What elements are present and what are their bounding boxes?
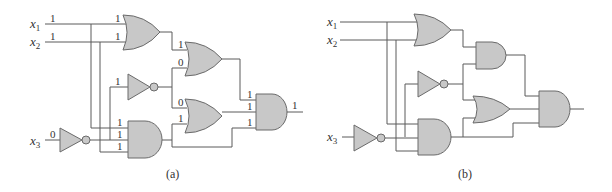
bit-and1-in1: 1 bbox=[117, 116, 123, 128]
bit-not1-in: 1 bbox=[115, 75, 121, 87]
caption-a: (a) bbox=[166, 167, 179, 181]
panel-a: x1 x2 x3 bbox=[29, 12, 303, 181]
input-x2-label-b: x2 bbox=[326, 32, 337, 49]
or-gate-1 bbox=[123, 15, 160, 50]
input-x2-label: x2 bbox=[29, 34, 40, 51]
or-gate-2 bbox=[185, 42, 222, 76]
and-gate-2-b bbox=[476, 42, 506, 69]
or-gate-1-b bbox=[414, 14, 451, 46]
bit-x1: 1 bbox=[50, 12, 56, 24]
bit-x2: 1 bbox=[50, 30, 56, 42]
bit-output: 1 bbox=[292, 99, 298, 111]
bit-or3-in1: 0 bbox=[178, 96, 184, 108]
wire-x2-tap bbox=[100, 42, 130, 152]
not-bubble-x3 bbox=[82, 136, 90, 144]
bit-andout-in1: 1 bbox=[247, 88, 253, 100]
not-gate-x3-b bbox=[354, 125, 377, 151]
bit-or1-in1: 1 bbox=[115, 12, 121, 24]
or-gate-2-b bbox=[473, 96, 510, 123]
or-gate-3 bbox=[185, 99, 222, 133]
bit-or1-in2: 1 bbox=[115, 30, 121, 42]
wire-and1-out-b bbox=[451, 118, 540, 137]
input-x3-label: x3 bbox=[29, 133, 41, 150]
and-gate-1-b bbox=[418, 119, 451, 155]
and-gate-output bbox=[256, 94, 287, 130]
bit-and1-in2: 1 bbox=[117, 128, 123, 140]
bit-or2-in1: 1 bbox=[178, 38, 184, 50]
not-bubble-1 bbox=[150, 83, 158, 91]
wire-or2-out bbox=[222, 59, 258, 100]
caption-b: (b) bbox=[458, 167, 472, 181]
wire-and1-out bbox=[162, 124, 258, 147]
input-x1-label: x1 bbox=[29, 16, 40, 33]
wire-or1-out-b bbox=[451, 30, 478, 47]
not-gate-1 bbox=[128, 74, 150, 100]
bit-and1-in3: 1 bbox=[117, 140, 123, 152]
and-gate-1 bbox=[128, 121, 162, 158]
bit-andout-in2: 1 bbox=[247, 100, 253, 112]
not-bubble-x3-b bbox=[377, 134, 385, 142]
input-x1-label-b: x1 bbox=[326, 14, 337, 31]
wire-x2-tap-b bbox=[396, 40, 420, 151]
wire-x1-tap-b bbox=[387, 22, 420, 124]
wire-and2-out-b bbox=[506, 55, 540, 96]
bit-or3-in2: 1 bbox=[178, 112, 184, 124]
input-x3-label-b: x3 bbox=[326, 129, 338, 146]
not-gate-1-b bbox=[418, 71, 440, 97]
wire-not-input-b bbox=[405, 84, 418, 137]
bit-andout-in3: 1 bbox=[247, 116, 253, 128]
wire-not1-out-b bbox=[448, 64, 478, 100]
not-gate-x3 bbox=[60, 128, 82, 152]
bit-x3: 0 bbox=[50, 128, 56, 140]
not-bubble-1-b bbox=[440, 80, 448, 88]
logic-circuit-figure: x1 x2 x3 bbox=[0, 0, 612, 192]
panel-b: x1 x2 x3 (b) bbox=[326, 14, 584, 181]
and-gate-output-b bbox=[539, 91, 570, 127]
bit-or2-in2: 0 bbox=[178, 56, 184, 68]
